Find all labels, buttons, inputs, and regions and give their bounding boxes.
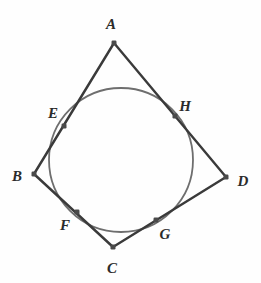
label-h: H bbox=[179, 99, 191, 114]
geometry-diagram: ABCDEFGH bbox=[0, 0, 261, 283]
label-b: B bbox=[12, 169, 22, 184]
label-f: F bbox=[60, 218, 70, 233]
label-d: D bbox=[238, 174, 249, 189]
vertex-point-A bbox=[112, 41, 117, 46]
label-a: A bbox=[106, 17, 116, 32]
label-c: C bbox=[107, 261, 117, 276]
tangent-point-G bbox=[154, 218, 159, 223]
tangent-point-H bbox=[173, 114, 178, 119]
label-e: E bbox=[48, 106, 58, 121]
vertex-point-B bbox=[32, 172, 37, 177]
diagram-canvas bbox=[0, 0, 261, 283]
edge-AB bbox=[34, 43, 114, 174]
tangent-point-F bbox=[75, 210, 80, 215]
edge-BC bbox=[34, 174, 113, 247]
edge-DA bbox=[114, 43, 226, 177]
vertex-point-D bbox=[224, 175, 229, 180]
tangent-point-E bbox=[62, 124, 67, 129]
label-g: G bbox=[160, 227, 171, 242]
vertex-point-C bbox=[111, 245, 116, 250]
